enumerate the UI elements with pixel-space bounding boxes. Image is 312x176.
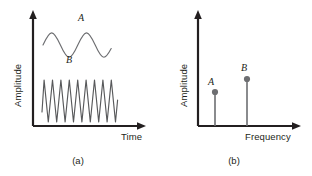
waveform-a-curve xyxy=(43,33,111,57)
panel-caption-b: (b) xyxy=(156,155,312,166)
y-axis-a xyxy=(29,10,37,126)
figure-container: A B Amplitude Time (a) xyxy=(0,0,312,176)
stem-label-b: B xyxy=(241,62,247,73)
spectral-line-b xyxy=(244,76,250,126)
waveform-b-curve xyxy=(42,80,118,122)
y-axis-label-a: Amplitude xyxy=(12,64,23,107)
panel-a: A B Amplitude Time (a) xyxy=(0,0,156,176)
panel-b: A B Amplitude Frequency (b) xyxy=(156,0,312,176)
panel-caption-a: (a) xyxy=(0,155,156,166)
stem-label-a: A xyxy=(208,76,214,87)
y-axis-b xyxy=(194,10,202,126)
x-axis-label-a: Time xyxy=(121,131,142,142)
curve-label-b: B xyxy=(66,54,72,65)
x-axis-b xyxy=(198,122,301,130)
curve-label-a: A xyxy=(78,12,84,23)
x-axis-label-b: Frequency xyxy=(245,131,291,142)
spectral-line-a xyxy=(212,89,218,126)
y-axis-label-b: Amplitude xyxy=(178,64,189,107)
x-axis-a xyxy=(33,122,146,130)
